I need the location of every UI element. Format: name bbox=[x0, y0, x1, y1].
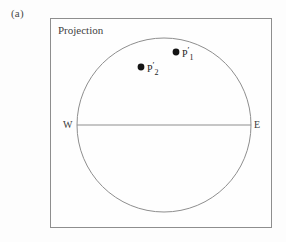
projection-diagram bbox=[0, 0, 286, 242]
point-label-p1-subscript: 1 bbox=[190, 53, 194, 62]
direction-label-east: E bbox=[254, 119, 260, 130]
point-label-p2-subscript: 2 bbox=[155, 68, 159, 77]
data-point-p1-prime bbox=[173, 49, 180, 56]
data-point-p2-prime bbox=[138, 64, 145, 71]
figure-panel: (a) Projection W E P′1 P′2 bbox=[0, 0, 286, 242]
direction-label-west: W bbox=[63, 119, 72, 130]
point-label-p1-prime: P′1 bbox=[182, 45, 194, 63]
point-label-p2-prime: P′2 bbox=[147, 60, 159, 78]
